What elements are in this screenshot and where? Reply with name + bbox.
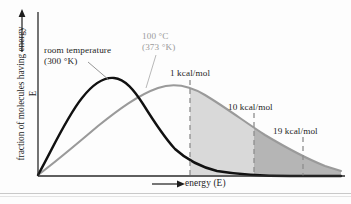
y-axis-label: fraction of molecules having energy E: [16, 24, 39, 164]
annotation-room-temperature-line1: room temperature: [44, 45, 111, 56]
x-axis-label: energy (E): [185, 178, 226, 189]
annotation-marker-10-kcal: 10 kcal/mol: [228, 102, 273, 113]
maxwell-boltzmann-distribution-figure: fraction of molecules having energy E en…: [0, 0, 351, 204]
leader-line-100C: [146, 55, 156, 88]
annotation-marker-19-kcal: 19 kcal/mol: [273, 126, 318, 137]
annotation-room-temperature: room temperature (300 °K): [44, 45, 111, 66]
figure-bottom-rule: [0, 193, 351, 194]
annotation-room-temperature-line2: (300 °K): [44, 56, 111, 67]
plot-canvas: [0, 0, 351, 204]
x-axis-arrow-icon: [152, 181, 185, 188]
annotation-marker-1-kcal: 1 kcal/mol: [170, 68, 210, 79]
annotation-100C-373K: 100 °C (373 °K): [142, 31, 175, 52]
annotation-100C-line1: 100 °C: [142, 31, 175, 42]
annotation-100C-line2: (373 °K): [142, 42, 175, 53]
figure-bottom-rule-secondary: [0, 196, 351, 197]
